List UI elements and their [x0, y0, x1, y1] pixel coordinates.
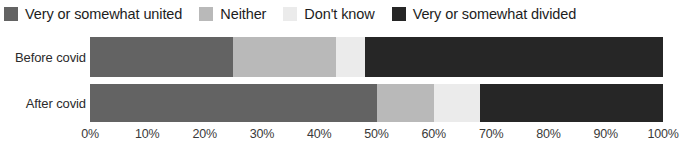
legend-item-very-or-somewhat-divided[interactable]: Very or somewhat divided: [392, 6, 577, 22]
category-axis: Before covid After covid: [0, 33, 86, 125]
bar-row: [90, 37, 663, 77]
bar-row: [90, 84, 663, 122]
x-axis-tick-label: 70%: [479, 127, 503, 142]
bar-segment: [365, 37, 663, 77]
bar-segment: [90, 84, 377, 122]
x-axis-tick-label: 20%: [192, 127, 216, 142]
category-label-after-covid: After covid: [4, 96, 86, 111]
bar-segment: [233, 37, 336, 77]
bar-segment: [336, 37, 365, 77]
stacked-bar-chart: Very or somewhat united Neither Don't kn…: [0, 0, 682, 146]
bar-segment: [480, 84, 663, 122]
category-label-before-covid: Before covid: [4, 50, 86, 65]
chart-legend: Very or somewhat united Neither Don't kn…: [4, 3, 678, 24]
x-axis-tick-label: 100%: [647, 127, 678, 142]
legend-item-dont-know[interactable]: Don't know: [283, 6, 374, 22]
legend-item-neither[interactable]: Neither: [199, 6, 266, 22]
legend-swatch-icon: [199, 7, 213, 21]
legend-swatch-icon: [4, 7, 18, 21]
x-axis-tick-label: 10%: [135, 127, 159, 142]
x-axis-tick-label: 0%: [81, 127, 99, 142]
legend-label: Don't know: [304, 6, 374, 22]
x-axis-tick-label: 90%: [593, 127, 617, 142]
x-axis-tick-label: 40%: [307, 127, 331, 142]
plot-area: [90, 33, 663, 125]
bar-segment: [434, 84, 480, 122]
legend-label: Very or somewhat divided: [413, 6, 577, 22]
legend-swatch-icon: [283, 7, 297, 21]
legend-label: Very or somewhat united: [25, 6, 182, 22]
x-axis-tick-label: 30%: [250, 127, 274, 142]
legend-swatch-icon: [392, 7, 406, 21]
bar-segment: [377, 84, 434, 122]
x-axis-tick-label: 60%: [422, 127, 446, 142]
bar-segment: [90, 37, 233, 77]
x-axis-tick-label: 50%: [364, 127, 388, 142]
legend-item-very-or-somewhat-united[interactable]: Very or somewhat united: [4, 6, 182, 22]
x-axis-tick-label: 80%: [536, 127, 560, 142]
x-axis: 0%10%20%30%40%50%60%70%80%90%100%: [90, 127, 663, 145]
legend-label: Neither: [220, 6, 266, 22]
